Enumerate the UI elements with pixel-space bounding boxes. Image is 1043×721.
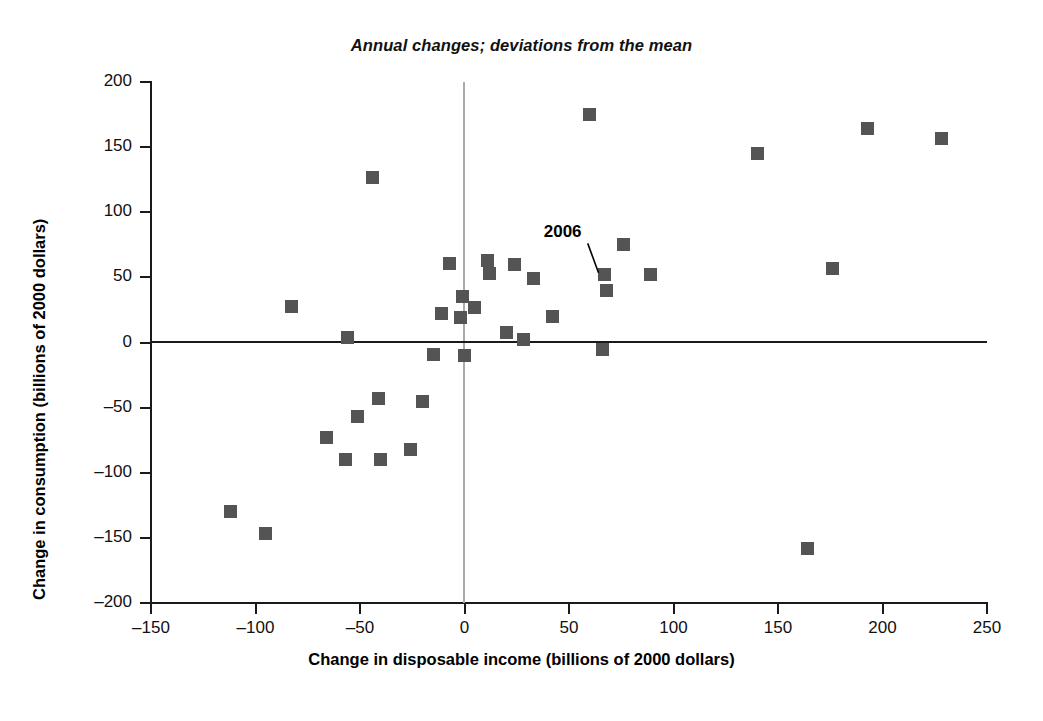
y-tick-mark [140, 211, 151, 213]
x-tick-mark [777, 603, 779, 614]
data-point-marker [339, 453, 352, 466]
x-tick-mark [464, 603, 466, 614]
x-tick-label: 0 [425, 618, 505, 638]
scatter-plot-figure: Annual changes; deviations from the mean… [0, 0, 1043, 721]
data-point-marker [517, 333, 530, 346]
x-tick-mark [673, 603, 675, 614]
y-axis-title: Change in consumption (billions of 2000 … [30, 219, 49, 600]
data-point-marker [644, 268, 657, 281]
data-point-marker [454, 311, 467, 324]
x-axis-title: Change in disposable income (billions of… [0, 650, 1043, 669]
data-point-marker [583, 108, 596, 121]
x-tick-mark [568, 603, 570, 614]
y-tick-mark [140, 472, 151, 474]
y-tick-mark [140, 537, 151, 539]
y-tick-label: –100 [60, 462, 132, 482]
data-point-marker [801, 542, 814, 555]
data-point-marker [366, 171, 379, 184]
data-point-marker [500, 326, 513, 339]
y-tick-mark [140, 342, 151, 344]
y-tick-label: –50 [60, 397, 132, 417]
data-point-marker [372, 392, 385, 405]
y-tick-mark [140, 276, 151, 278]
data-point-marker [481, 254, 494, 267]
data-point-marker [508, 258, 521, 271]
data-point-marker [351, 410, 364, 423]
x-tick-label: 250 [947, 618, 1027, 638]
y-tick-label: 100 [60, 201, 132, 221]
data-point-marker [617, 238, 630, 251]
data-point-marker [826, 262, 839, 275]
data-point-marker [546, 310, 559, 323]
x-tick-mark [882, 603, 884, 614]
data-point-marker [483, 267, 496, 280]
x-tick-mark [359, 603, 361, 614]
x-tick-label: 100 [634, 618, 714, 638]
data-point-marker [600, 284, 613, 297]
y-tick-label: 50 [60, 266, 132, 286]
data-point-marker [374, 453, 387, 466]
data-point-marker [443, 257, 456, 270]
y-tick-label: 150 [60, 136, 132, 156]
x-tick-label: 150 [738, 618, 818, 638]
data-point-marker [320, 431, 333, 444]
data-point-marker [285, 300, 298, 313]
y-tick-label: 0 [60, 332, 132, 352]
x-tick-label: 50 [529, 618, 609, 638]
data-point-marker [404, 443, 417, 456]
data-point-marker [751, 147, 764, 160]
y-tick-mark [140, 146, 151, 148]
annotation-label-2006: 2006 [544, 222, 582, 242]
data-point-marker [259, 527, 272, 540]
data-point-marker [527, 272, 540, 285]
x-tick-label: –50 [320, 618, 400, 638]
annotation-leader-line-2006 [0, 0, 1043, 721]
data-point-marker [427, 348, 440, 361]
x-tick-label: 200 [843, 618, 923, 638]
data-point-marker [224, 505, 237, 518]
data-point-marker [596, 343, 609, 356]
x-tick-mark [150, 603, 152, 614]
data-point-marker [598, 268, 611, 281]
x-tick-label: –150 [111, 618, 191, 638]
x-tick-mark [986, 603, 988, 614]
y-tick-label: –200 [60, 592, 132, 612]
y-tick-label: –150 [60, 527, 132, 547]
zero-horizontal-reference-line [151, 341, 987, 343]
x-tick-label: –100 [216, 618, 296, 638]
data-point-marker [935, 132, 948, 145]
x-tick-mark [255, 603, 257, 614]
data-point-marker [341, 331, 354, 344]
data-point-marker [458, 349, 471, 362]
data-point-marker [468, 301, 481, 314]
chart-title: Annual changes; deviations from the mean [0, 36, 1043, 55]
data-point-marker [861, 122, 874, 135]
y-tick-label: 200 [60, 71, 132, 91]
y-tick-mark [140, 407, 151, 409]
data-point-marker [456, 290, 469, 303]
data-point-marker [416, 395, 429, 408]
data-point-marker [435, 307, 448, 320]
y-tick-mark [140, 81, 151, 83]
